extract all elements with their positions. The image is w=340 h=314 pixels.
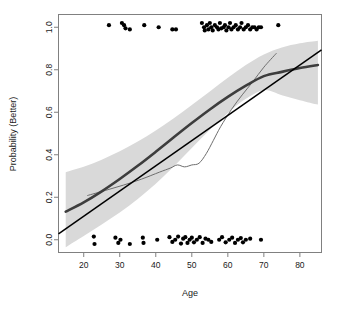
data-point [203,28,207,32]
data-point [246,23,250,27]
data-point [183,235,187,239]
data-point [123,26,127,30]
data-point [259,25,263,29]
x-tick-label: 60 [223,260,233,270]
x-tick-label: 30 [115,260,125,270]
y-tick-label: 0.0 [44,234,54,246]
data-point [113,236,117,240]
x-tick-label: 20 [79,260,89,270]
x-tick-label: 40 [151,260,161,270]
data-point [201,241,205,245]
data-point [142,23,146,27]
x-tick-label: 80 [295,260,305,270]
data-point [167,235,171,239]
data-point [157,25,161,29]
scatter-plot: 20304050607080 0.00.20.40.60.81.0 Age Pr… [0,0,340,314]
data-point [190,236,194,240]
data-point [128,242,132,246]
data-point [209,240,213,244]
data-point [218,21,222,25]
y-axis-title: Probability (Better) [8,97,18,172]
data-point [176,234,180,238]
data-point [230,236,234,240]
data-point [155,238,159,242]
data-point [248,237,252,241]
data-point [224,240,228,244]
data-point [276,23,280,27]
data-point [208,21,212,25]
data-point [179,241,183,245]
x-tick-label: 50 [187,260,197,270]
data-point [228,21,232,25]
data-point [198,235,202,239]
y-tick-label: 0.8 [44,64,54,76]
data-point [220,235,224,239]
data-point [92,234,96,238]
y-tick-label: 1.0 [44,21,54,33]
y-tick-label: 0.6 [44,106,54,118]
data-point [244,238,248,242]
x-tick-label: 70 [259,260,269,270]
data-point [239,236,243,240]
data-point [173,238,177,242]
data-point [107,23,111,27]
data-point [233,241,237,245]
data-point [118,238,122,242]
data-point [128,27,132,31]
data-point [200,21,204,25]
data-point [239,21,243,25]
y-tick-label: 0.2 [44,191,54,203]
y-tick-label: 0.4 [44,149,54,161]
data-point [234,23,238,27]
data-point [170,27,174,31]
data-point [223,23,227,27]
data-point [259,238,263,242]
x-axis-title: Age [182,288,198,298]
data-point [141,236,145,240]
data-point [141,241,145,245]
data-point [211,28,215,32]
data-point [238,25,242,29]
data-point [174,27,178,31]
figure-canvas: 20304050607080 0.00.20.40.60.81.0 Age Pr… [0,0,340,314]
data-point [92,242,96,246]
